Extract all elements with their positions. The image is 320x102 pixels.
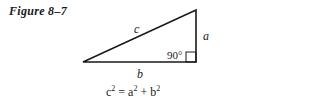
formula-equals: =: [115, 85, 128, 99]
pythagorean-formula: c2 = a2 + b2: [106, 84, 160, 100]
right-angle-marker: [186, 52, 196, 62]
formula-plus: +: [137, 85, 150, 99]
right-angle-label: 90°: [167, 49, 182, 61]
hypotenuse-label: c: [134, 22, 139, 37]
horizontal-leg-label: b: [137, 67, 143, 82]
vertical-leg-label: a: [203, 29, 209, 44]
formula-exp-b: 2: [156, 84, 160, 93]
